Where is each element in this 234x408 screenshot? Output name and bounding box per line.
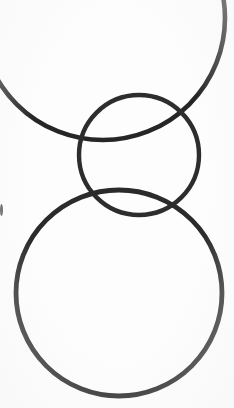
- left-edge-speck-icon: [0, 204, 3, 216]
- rings-figure: Three overlapping circular rings: [0, 0, 234, 408]
- image-canvas: Three overlapping circular rings: [0, 0, 234, 408]
- background-plate: [0, 0, 234, 408]
